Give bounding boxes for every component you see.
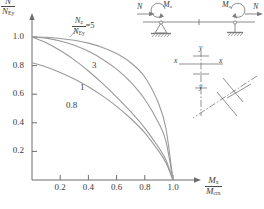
x-tick-label-1-0: 1.0 (163, 183, 183, 192)
section-axis-left-label: x (174, 57, 177, 65)
legend-equals: =5 (86, 20, 95, 30)
beam-axial-right-label: N (253, 3, 258, 11)
curve-3 (32, 37, 173, 180)
x-axis-numerator: M (208, 175, 216, 185)
beam-moment-right-label: Mx (222, 1, 231, 10)
y-tick-label-0-2: 0.2 (2, 146, 24, 155)
curve-5 (32, 37, 173, 180)
legend-denominator-sub: Ey (79, 30, 85, 36)
x-axis-denominator: M (206, 186, 214, 196)
section-axis-bottom-label: y (199, 83, 202, 91)
y-tick-label-0-6: 0.6 (2, 89, 24, 98)
x-axis-numerator-sub: x (216, 179, 219, 185)
x-tick-label-0-6: 0.6 (107, 183, 127, 192)
y-tick-label-0-4: 0.4 (2, 118, 24, 127)
y-tick-label-0-8: 0.8 (2, 61, 24, 70)
x-axis-ticks (60, 175, 173, 180)
y-axis-label: N NEy (1, 0, 15, 18)
y-axis-denominator-sub: Ey (8, 11, 14, 17)
y-tick-label-1-0: 1.0 (2, 32, 24, 41)
curve-label-3: 3 (92, 61, 97, 70)
section-axis-right-label: x (219, 57, 222, 65)
beam-moment-left-label: Mx (163, 1, 172, 10)
cross-section-sketch (165, 48, 264, 120)
x-tick-label-0-4: 0.4 (78, 183, 98, 192)
y-axis-numerator: N (5, 0, 11, 6)
y-axis-ticks (32, 37, 37, 151)
x-axis-label: Mx Mcrx (205, 176, 222, 197)
legend-ratio: Nz NEy =5 (72, 16, 95, 36)
interaction-diagram-figure: N NEy Mx Mcrx 0.20.40.60.81.0 0.20.40.60… (0, 0, 264, 209)
x-axis-denominator-sub: crx (214, 190, 221, 196)
curve-label-1: 1 (80, 83, 85, 92)
curve-0-8 (32, 63, 173, 180)
curve-label-0-8: 0.8 (66, 101, 77, 110)
section-axis-top-label: y (199, 44, 202, 52)
legend-numerator-sub: z (80, 19, 82, 25)
x-tick-label-0-8: 0.8 (135, 183, 155, 192)
beam-axial-left-label: N (137, 3, 142, 11)
curve-1 (32, 37, 173, 180)
interaction-curves (32, 37, 173, 180)
x-tick-label-0-2: 0.2 (50, 183, 70, 192)
